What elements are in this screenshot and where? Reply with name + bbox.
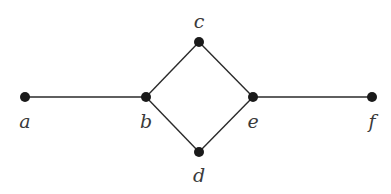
- node-label-f: f: [366, 110, 378, 132]
- labels-layer: a b c d e f: [19, 10, 378, 186]
- edges-layer: [25, 42, 372, 152]
- graph-svg: a b c d e f: [0, 0, 391, 194]
- edge-b-c: [146, 42, 199, 97]
- node-f: [367, 92, 377, 102]
- node-label-d: d: [193, 164, 205, 186]
- node-label-e: e: [247, 110, 258, 132]
- edge-c-e: [199, 42, 253, 97]
- node-label-a: a: [19, 110, 30, 132]
- node-a: [20, 92, 30, 102]
- node-label-b: b: [140, 110, 152, 132]
- edge-b-d: [146, 97, 199, 152]
- node-d: [194, 147, 204, 157]
- node-label-c: c: [194, 10, 205, 32]
- edge-d-e: [199, 97, 253, 152]
- graph-diagram: a b c d e f: [0, 0, 391, 194]
- node-e: [248, 92, 258, 102]
- node-c: [194, 37, 204, 47]
- node-b: [141, 92, 151, 102]
